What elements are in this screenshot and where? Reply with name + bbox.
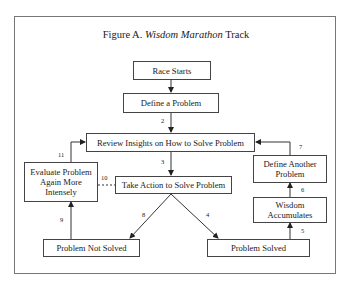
node-label: Race Starts	[153, 66, 192, 76]
node-race-starts: Race Starts	[133, 61, 211, 80]
node-label: Problem Not Solved	[56, 243, 126, 253]
node-wisdom-accumulates: Wisdom Accumulates	[253, 197, 327, 223]
node-review-insights: Review Insights on How to Solve Problem	[86, 133, 255, 152]
node-problem-not-solved: Problem Not Solved	[43, 239, 140, 257]
node-label: Wisdom Accumulates	[262, 200, 318, 220]
node-label: Review Insights on How to Solve Problem	[97, 138, 244, 148]
node-define-another: Define Another Problem	[253, 155, 327, 183]
node-take-action: Take Action to Solve Problem	[115, 176, 232, 194]
edge-label-2: 2	[161, 117, 164, 124]
node-label: Define Another Problem	[258, 159, 322, 179]
node-label: Take Action to Solve Problem	[122, 180, 225, 190]
node-problem-solved: Problem Solved	[207, 239, 310, 257]
edge-label-3: 3	[161, 158, 164, 165]
edge-label-4: 4	[206, 211, 209, 218]
edge-label-10: 10	[101, 174, 108, 181]
edge-label-6: 6	[301, 186, 304, 193]
edge-label-8: 8	[142, 211, 145, 218]
node-label: Define a Problem	[141, 98, 202, 108]
node-label: Problem Solved	[231, 243, 286, 253]
node-label: Evaluate Problem Again More Intensely	[29, 167, 93, 197]
edge-label-7: 7	[299, 143, 302, 150]
edge-label-11: 11	[58, 151, 64, 158]
edge-label-9: 9	[60, 216, 63, 223]
node-define-problem: Define a Problem	[123, 93, 219, 113]
node-evaluate-again: Evaluate Problem Again More Intensely	[24, 162, 98, 202]
edge-label-5: 5	[301, 227, 304, 234]
